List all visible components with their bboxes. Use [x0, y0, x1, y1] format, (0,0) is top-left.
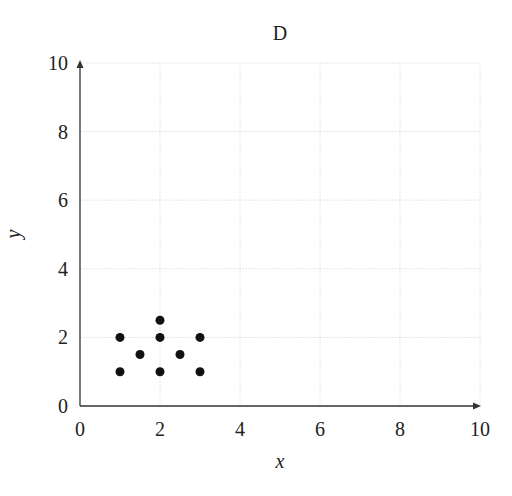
data-point [156, 316, 165, 325]
x-tick-label: 2 [155, 418, 165, 440]
y-tick-label: 4 [58, 258, 68, 280]
data-point [176, 350, 185, 359]
x-axis-label: x [275, 450, 285, 472]
tick-labels: 02468100246810 [48, 52, 490, 440]
y-axis-arrow-icon [77, 60, 84, 68]
chart-title: D [273, 22, 287, 44]
data-point [196, 333, 205, 342]
y-tick-label: 0 [58, 395, 68, 417]
data-point [196, 367, 205, 376]
x-tick-label: 0 [75, 418, 85, 440]
scatter-chart: 02468100246810 D x y [0, 0, 512, 496]
x-tick-label: 4 [235, 418, 245, 440]
data-point [136, 350, 145, 359]
y-tick-label: 6 [58, 189, 68, 211]
y-axis-label: y [2, 229, 25, 240]
data-point [116, 367, 125, 376]
y-tick-label: 2 [58, 326, 68, 348]
x-tick-label: 10 [470, 418, 490, 440]
y-tick-label: 8 [58, 121, 68, 143]
y-tick-label: 10 [48, 52, 68, 74]
data-point [156, 333, 165, 342]
data-point [156, 367, 165, 376]
data-point [116, 333, 125, 342]
x-tick-label: 6 [315, 418, 325, 440]
x-tick-label: 8 [395, 418, 405, 440]
